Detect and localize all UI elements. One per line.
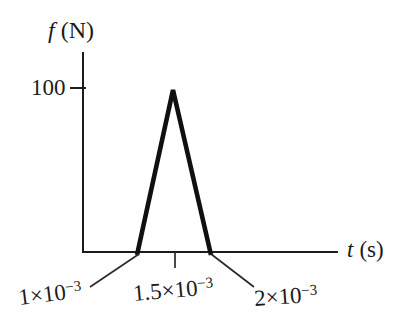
force-pulse-line xyxy=(137,90,211,255)
leader-line-2e-3 xyxy=(211,254,254,287)
x-tick-label-2e-3: 2×10−3 xyxy=(253,283,318,310)
x-tick-3-mantissa: 2×10 xyxy=(253,283,302,311)
x-axis-unit: (s) xyxy=(359,237,383,262)
y-axis-unit: (N) xyxy=(61,17,94,43)
force-time-graph: f(N) 100 t(s) 1×10−3 1.5×10−3 2×10−3 xyxy=(0,0,405,330)
y-axis-label: f(N) xyxy=(48,18,94,42)
x-tick-2-exponent: −3 xyxy=(196,274,213,291)
y-tick-label-100: 100 xyxy=(31,76,66,99)
x-tick-1-exponent: −3 xyxy=(64,277,82,295)
x-axis-label: t(s) xyxy=(347,238,384,261)
x-tick-3-exponent: −3 xyxy=(301,282,318,299)
y-axis-variable: f xyxy=(48,17,55,43)
x-axis-variable: t xyxy=(347,237,353,262)
